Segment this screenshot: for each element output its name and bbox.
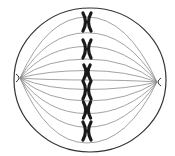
chromosomes bbox=[83, 13, 91, 140]
chromosome-icon bbox=[83, 122, 91, 140]
metaphase-diagram bbox=[0, 0, 175, 156]
chromosome-icon bbox=[83, 13, 91, 31]
right-pole-icon bbox=[158, 78, 161, 86]
chromosome-icon bbox=[83, 102, 90, 118]
chromosome-icon bbox=[83, 40, 91, 58]
chromosome-icon bbox=[84, 65, 90, 79]
left-pole-icon bbox=[16, 74, 19, 82]
cell-diagram-canvas bbox=[0, 0, 175, 156]
chromosome-icon bbox=[83, 81, 91, 99]
